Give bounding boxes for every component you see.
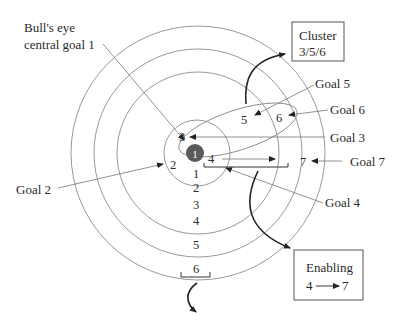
bullseye-number: 1 xyxy=(192,148,198,160)
bullseye-diagram: 1 Bull's eye central goal 1 Goal 2 2 3 G… xyxy=(0,0,397,328)
goal-6-arrow xyxy=(289,110,328,115)
inner-label-4: 4 xyxy=(208,152,215,166)
goal-3-label: Goal 3 xyxy=(330,130,365,145)
cluster-box-line2: 3/5/6 xyxy=(299,44,326,59)
goal-4-arrow xyxy=(226,168,323,203)
bullseye-label-line1: Bull's eye xyxy=(24,20,75,35)
ring-number-1: 1 xyxy=(193,167,199,181)
enabling-box xyxy=(294,250,363,300)
enabling-box-line1: Enabling xyxy=(306,260,353,275)
enabling-from: 4 xyxy=(306,278,313,293)
ring-number-5: 5 xyxy=(193,238,199,252)
goal-2-arrow xyxy=(58,164,163,188)
cluster-curved-arrow xyxy=(246,54,285,104)
goal-4-bracket xyxy=(204,163,288,167)
ring-number-6: 6 xyxy=(193,262,199,276)
goal-5-arrow xyxy=(255,85,314,115)
cluster-box-line1: Cluster xyxy=(299,28,337,43)
bullseye-label-line2: central goal 1 xyxy=(24,37,95,52)
inner-label-2: 2 xyxy=(170,158,176,172)
inner-label-3: 3 xyxy=(179,130,185,144)
enabling-to: 7 xyxy=(342,278,349,293)
goal-4-label: Goal 4 xyxy=(325,195,361,210)
inner-label-7: 7 xyxy=(300,155,306,169)
ring-number-3: 3 xyxy=(193,198,199,212)
inner-label-6-cluster: 6 xyxy=(276,111,282,125)
goal-2-label: Goal 2 xyxy=(16,182,51,197)
ring-number-2: 2 xyxy=(193,181,199,195)
goal-7-label: Goal 7 xyxy=(350,154,386,169)
bullseye-arrow xyxy=(103,44,184,140)
goal-5-label: Goal 5 xyxy=(315,76,350,91)
goal-6-label: Goal 6 xyxy=(330,102,366,117)
ring-number-4: 4 xyxy=(193,214,200,228)
ring-6-curved-arrow xyxy=(188,283,197,312)
inner-label-5-cluster: 5 xyxy=(241,113,247,127)
